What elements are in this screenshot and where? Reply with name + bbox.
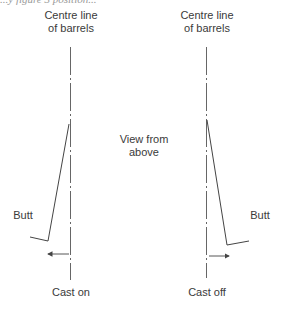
left-barrel-outline [30, 124, 69, 241]
diagram-drawing [0, 0, 281, 310]
right-barrel-outline [207, 120, 249, 245]
